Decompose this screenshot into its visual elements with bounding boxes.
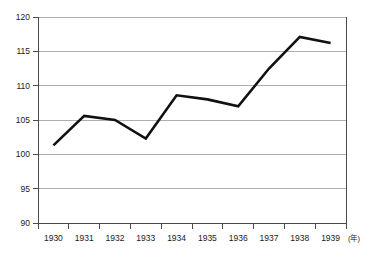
- x-axis-label-1932: 1932: [106, 233, 125, 243]
- x-tickmarks: [38, 223, 346, 229]
- x-axis-label-1935: 1935: [198, 233, 217, 243]
- x-axis-label-1931: 1931: [75, 233, 94, 243]
- y-axis-label-110: 110: [16, 81, 30, 91]
- y-axis-label-105: 105: [16, 115, 30, 125]
- x-axis-unit-label: (年): [348, 233, 360, 243]
- x-axis-label-1937: 1937: [260, 233, 279, 243]
- y-axis-label-90: 90: [21, 218, 31, 228]
- x-axis-label-1939: 1939: [321, 233, 340, 243]
- x-axis-labels: 1930 1931 1932 1933 1934 1935 1936 1937 …: [44, 233, 361, 243]
- y-axis-label-100: 100: [16, 149, 30, 159]
- y-axis-labels: 120 115 110 105 100 95 90: [16, 12, 30, 228]
- line-chart-figure: 120 115 110 105 100 95 90 1930 1931 1: [0, 0, 376, 258]
- y-axis-label-95: 95: [21, 184, 31, 194]
- x-axis-label-1934: 1934: [167, 233, 186, 243]
- x-axis-label-1936: 1936: [229, 233, 248, 243]
- y-axis-label-120: 120: [16, 12, 30, 22]
- x-axis-label-1938: 1938: [290, 233, 309, 243]
- x-axis-label-1933: 1933: [136, 233, 155, 243]
- y-tickmarks: [33, 17, 38, 223]
- y-axis-label-115: 115: [16, 46, 30, 56]
- x-axis-label-1930: 1930: [44, 233, 63, 243]
- chart-canvas: 120 115 110 105 100 95 90 1930 1931 1: [0, 0, 376, 258]
